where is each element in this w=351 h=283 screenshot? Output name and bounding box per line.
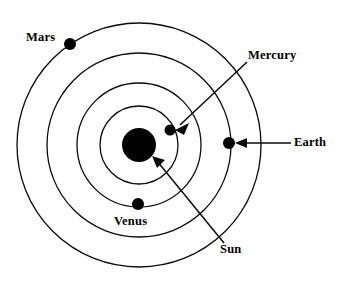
mars-body: [64, 38, 76, 50]
venus-body: [132, 198, 144, 210]
solar-system-diagram: Mars Mercury Earth Venus Sun: [0, 0, 351, 283]
mercury-leader-arrowhead: [175, 123, 189, 135]
mercury-leader-line: [180, 62, 247, 125]
label-mars: Mars: [26, 31, 55, 44]
sun-leader-line: [157, 161, 224, 243]
label-earth: Earth: [294, 136, 326, 149]
label-mercury: Mercury: [248, 49, 296, 62]
earth-leader: [235, 138, 291, 148]
mercury-leader: [175, 62, 247, 135]
label-sun: Sun: [220, 243, 241, 256]
earth-leader-arrowhead: [235, 138, 247, 148]
sun-leader-arrowhead: [152, 156, 165, 168]
earth-body: [223, 137, 235, 149]
mercury-body: [165, 125, 176, 136]
sun-body: [122, 128, 156, 162]
label-venus: Venus: [114, 215, 147, 228]
